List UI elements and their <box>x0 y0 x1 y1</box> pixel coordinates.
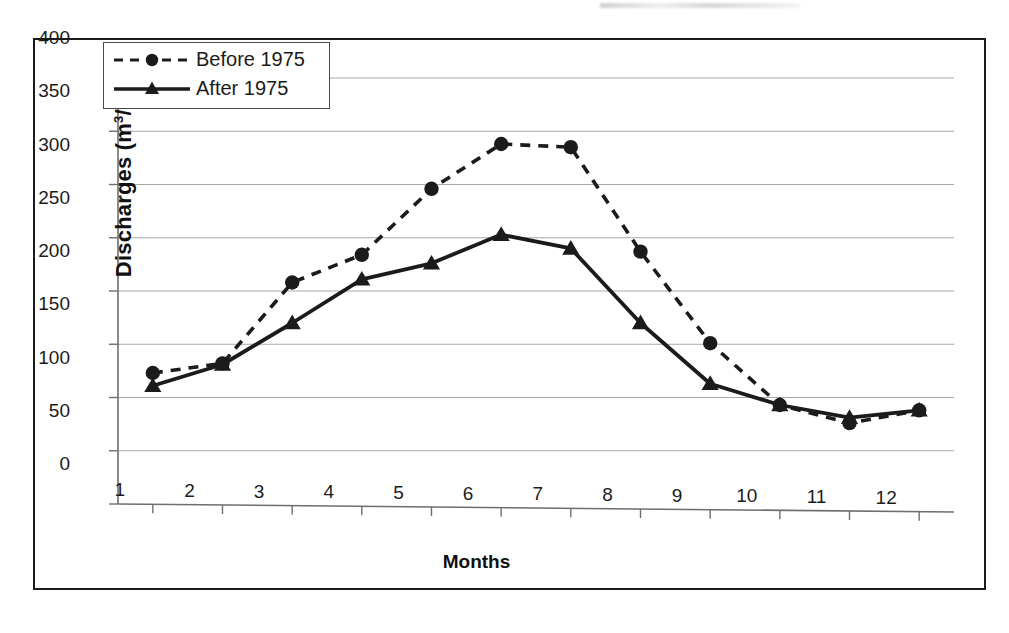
x-tick-label: 1 <box>100 479 140 501</box>
x-tick-label: 11 <box>797 486 837 508</box>
y-tick-label: 350 <box>14 80 70 102</box>
figure-canvas: 050100150200250300350400123456789101112 … <box>0 0 1009 633</box>
x-tick-label: 3 <box>239 481 279 503</box>
data-point-marker <box>703 336 717 350</box>
legend-item-before-1975[interactable]: Before 1975 <box>104 47 329 75</box>
y-tick-label: 200 <box>14 240 70 262</box>
x-tick-label: 5 <box>379 482 419 504</box>
x-axis-title: Months <box>0 551 953 573</box>
y-tick-label: 0 <box>14 453 70 475</box>
y-tick-label: 400 <box>14 27 70 49</box>
data-point-marker <box>284 315 301 330</box>
x-tick-label: 4 <box>309 481 349 503</box>
axes <box>109 78 954 521</box>
legend-swatch-solid-triangle <box>112 76 192 102</box>
x-tick-label: 2 <box>170 480 210 502</box>
legend-label-before-1975: Before 1975 <box>196 48 305 71</box>
data-series-layer <box>144 137 928 431</box>
x-tick-label: 8 <box>588 484 628 506</box>
y-tick-label: 50 <box>14 400 70 422</box>
series-line-1 <box>153 144 919 423</box>
legend-label-after-1975: After 1975 <box>196 77 288 100</box>
x-tick-label: 9 <box>657 485 697 507</box>
data-point-marker <box>424 182 438 196</box>
x-tick-label: 10 <box>727 485 767 507</box>
x-tick-label: 12 <box>866 487 906 509</box>
gridlines <box>118 78 954 451</box>
line-chart-plot <box>33 38 986 590</box>
data-point-marker <box>355 248 369 262</box>
y-tick-label: 300 <box>14 134 70 156</box>
legend-swatch-dashed-circle <box>112 47 192 73</box>
series-line-2 <box>153 235 919 418</box>
y-axis-title-text: Discharges (m3/s) <box>111 89 136 277</box>
legend: Before 1975 After 1975 <box>103 42 330 109</box>
scan-artifact <box>600 3 800 8</box>
data-point-marker <box>564 140 578 154</box>
legend-item-after-1975[interactable]: After 1975 <box>104 76 329 104</box>
y-tick-label: 150 <box>14 293 70 315</box>
y-tick-label: 100 <box>14 347 70 369</box>
x-tick-label: 7 <box>518 483 558 505</box>
data-point-marker <box>285 275 299 289</box>
data-point-marker <box>493 226 510 241</box>
y-tick-label: 250 <box>14 187 70 209</box>
data-point-marker <box>633 244 647 258</box>
x-tick-label: 6 <box>448 483 488 505</box>
data-point-marker <box>494 137 508 151</box>
